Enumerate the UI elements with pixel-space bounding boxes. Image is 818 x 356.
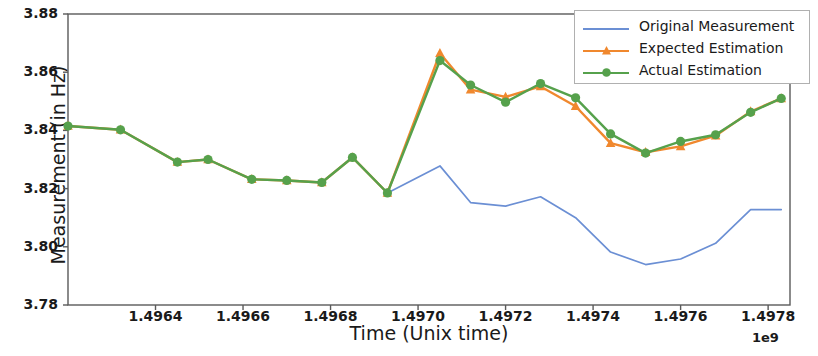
legend-line-swatch: [583, 28, 629, 30]
legend-label: Original Measurement: [639, 18, 794, 34]
legend-label: Actual Estimation: [639, 62, 762, 78]
legend-item-original-measurement[interactable]: Original Measurement: [583, 19, 805, 39]
data-point-marker: [282, 176, 291, 185]
data-point-marker: [606, 129, 615, 138]
data-point-marker: [641, 149, 650, 158]
data-point-marker: [247, 175, 256, 184]
legend-item-actual-estimation[interactable]: Actual Estimation: [583, 63, 805, 83]
data-point-marker: [173, 158, 182, 167]
data-point-marker: [63, 121, 72, 130]
data-point-marker: [317, 178, 326, 187]
data-point-marker: [203, 155, 212, 164]
figure-canvas: Measurement (in Hz) Time (Unix time) 1e9…: [0, 0, 818, 356]
legend: Original Measurement Expected Estimation…: [574, 10, 810, 84]
data-point-marker: [746, 108, 755, 117]
data-point-marker: [383, 188, 392, 197]
data-point-marker: [571, 93, 580, 102]
data-point-marker: [435, 56, 444, 65]
circle-marker-icon: [601, 67, 612, 78]
legend-label: Expected Estimation: [639, 40, 783, 56]
data-point-marker: [536, 79, 545, 88]
data-point-marker: [676, 137, 685, 146]
data-point-marker: [348, 153, 357, 162]
series-original-measurement: [387, 166, 781, 265]
data-point-marker: [777, 94, 786, 103]
data-point-marker: [435, 48, 445, 57]
data-point-marker: [711, 130, 720, 139]
triangle-marker-icon: [601, 45, 612, 56]
data-point-marker: [501, 98, 510, 107]
data-point-marker: [466, 80, 475, 89]
series-line: [387, 166, 781, 265]
legend-item-expected-estimation[interactable]: Expected Estimation: [583, 41, 805, 61]
data-point-marker: [116, 125, 125, 134]
